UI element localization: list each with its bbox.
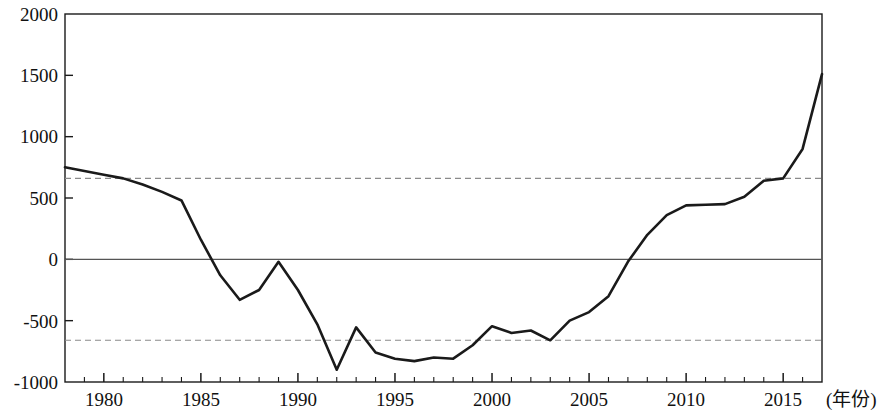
y-tick-label: -500 — [0, 312, 58, 331]
x-tick-label: 1995 — [355, 390, 435, 409]
reference-lines — [65, 178, 822, 340]
x-tick-label: 2010 — [646, 390, 726, 409]
y-axis-ticks — [65, 75, 73, 320]
x-axis-minor-ticks — [84, 377, 802, 382]
x-tick-label: 1980 — [64, 390, 144, 409]
x-tick-label: 2005 — [549, 390, 629, 409]
x-axis-unit-label: (年份) — [826, 390, 877, 409]
y-tick-label: 0 — [0, 250, 58, 269]
x-tick-label: 1985 — [161, 390, 241, 409]
x-tick-label: 2015 — [743, 390, 823, 409]
x-tick-label: 2000 — [452, 390, 532, 409]
y-tick-label: 2000 — [0, 5, 58, 24]
y-tick-label: 1000 — [0, 127, 58, 146]
x-tick-label: 1990 — [258, 390, 338, 409]
y-tick-label: 1500 — [0, 66, 58, 85]
data-series-group — [65, 74, 822, 370]
data-line-series-1 — [65, 74, 822, 370]
x-axis-major-ticks — [104, 373, 783, 382]
y-tick-label: -1000 — [0, 373, 58, 392]
y-tick-label: 500 — [0, 189, 58, 208]
